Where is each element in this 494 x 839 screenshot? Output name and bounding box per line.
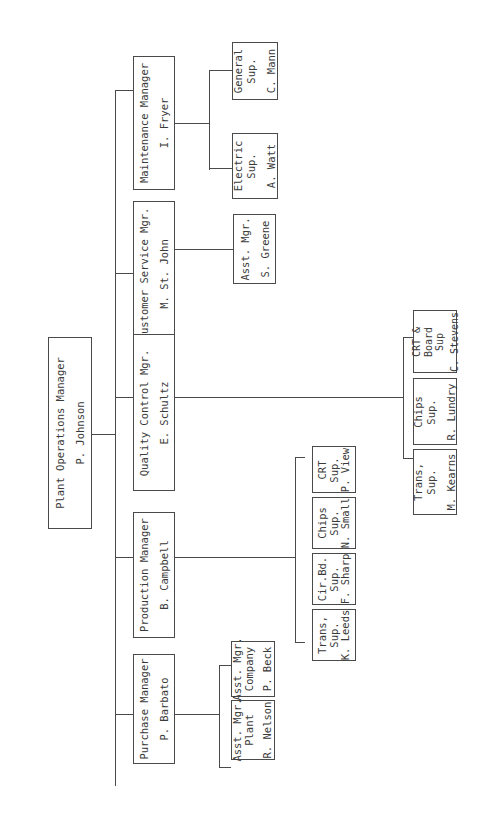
connector-production — [115, 557, 133, 558]
report-name: P. Beck — [262, 637, 274, 700]
report-line: CRT & — [411, 311, 423, 371]
report-box-beck: Asst. Mgr.CompanyP. Beck — [231, 641, 275, 697]
report-line: CRT — [317, 447, 329, 491]
manager-name: P. Barbato — [158, 658, 171, 759]
report-line: Asst. Mgr. — [232, 698, 244, 761]
connector-production-sub — [175, 557, 295, 558]
report-line: Asst. Mgr. — [238, 217, 251, 280]
root-title: Plant Operations Manager — [54, 357, 67, 509]
report-line: Chips — [412, 383, 425, 440]
report-box-crt: CRTSup.P. View — [312, 446, 356, 493]
report-line: General — [232, 49, 245, 93]
quality-sub-spine — [403, 337, 404, 459]
manager-title: Purchase Manager — [138, 658, 151, 759]
report-name: P. View — [340, 447, 352, 491]
manager-box-purchase: Purchase ManagerP. Barbato — [133, 654, 175, 764]
manager-title: Quality Control Mgr. — [138, 349, 151, 475]
connector-maintenance — [115, 90, 133, 91]
connector-root-spine — [92, 434, 116, 435]
report-name: N. Small — [340, 498, 352, 549]
report-box-chips: ChipsSup.N. Small — [312, 497, 356, 549]
report-line: Sup. — [425, 454, 438, 511]
report-line: Sup. — [425, 383, 438, 440]
report-line: Cir.Bd. — [317, 554, 329, 605]
connector-quality-sub — [175, 397, 403, 398]
connector-cs-sub — [175, 249, 233, 250]
manager-title: Maintenance Manager — [138, 63, 151, 183]
report-name: K. Leeds — [340, 610, 352, 661]
report-name: M. Kearns — [445, 454, 458, 511]
report-line: Sup — [434, 311, 446, 371]
report-line: Electric — [232, 141, 245, 192]
report-box-kearns: Trans,Sup.M. Kearns — [413, 449, 457, 515]
report-box-general: GeneralSup.C. Mann — [232, 42, 278, 100]
maint-sub-spine — [209, 70, 210, 170]
report-box-greene: Asst. Mgr.S. Greene — [233, 214, 276, 284]
manager-title: Customer Service Mgr. — [138, 207, 151, 340]
connector-beck — [219, 665, 231, 666]
report-name: R. Nelson — [262, 698, 274, 761]
manager-box-customer-service: Customer Service Mgr.M. St. John — [133, 201, 175, 346]
root-box: Plant Operations ManagerP. Johnson — [48, 337, 92, 529]
report-box-cirbd: Cir.Bd.Sup.F. Sharp — [312, 553, 356, 605]
report-line: Board — [422, 311, 434, 371]
report-name: R. Lundry — [445, 383, 458, 440]
manager-name: M. St. John — [158, 207, 171, 340]
report-box-lundry: ChipsSup.R. Lundry — [413, 378, 457, 445]
manager-title: Production Manager — [138, 518, 151, 632]
report-line: Sup. — [245, 49, 258, 93]
report-line: Chips — [317, 498, 329, 549]
connector-purchase — [115, 714, 133, 715]
report-name: C. Mann — [265, 49, 278, 93]
root-name: P. Johnson — [74, 357, 87, 509]
report-box-nelson: Asst. Mgr.PlantR. Nelson — [231, 700, 275, 760]
report-line: Trans, — [412, 454, 425, 511]
manager-box-quality: Quality Control Mgr.E. Schultz — [133, 334, 175, 491]
report-line: Company — [244, 637, 256, 700]
report-name: F. Sharp — [340, 554, 352, 605]
manager-box-production: Production ManagerB. Campbell — [133, 512, 175, 638]
connector-purchase-sub — [175, 714, 219, 715]
report-box-crt-board: CRT &BoardSupC. Stevens — [413, 310, 457, 373]
spine-line — [115, 90, 116, 786]
manager-name: I. Fryer — [158, 63, 171, 183]
report-box-electric: ElectricSup.A. Watt — [232, 133, 278, 199]
connector-general — [209, 70, 232, 71]
report-box-trans: Trans,Sup.K. Leeds — [312, 609, 356, 661]
report-name: S. Greene — [258, 217, 271, 280]
connector-nelson — [219, 767, 231, 768]
connector-customer-service — [115, 273, 133, 274]
purchase-sub-spine — [219, 665, 220, 768]
report-line: Asst. Mgr. — [232, 637, 244, 700]
report-name: C. Stevens — [448, 311, 460, 371]
manager-name: E. Schultz — [158, 349, 171, 475]
report-line: Plant — [244, 698, 256, 761]
connector-maintenance-sub — [175, 123, 209, 124]
connector-quality — [115, 397, 133, 398]
connector-electric — [209, 168, 232, 169]
manager-name: B. Campbell — [158, 518, 171, 632]
connector-trans — [295, 642, 305, 643]
connector-crt — [295, 457, 305, 458]
report-line: Trans, — [317, 610, 329, 661]
manager-box-maintenance: Maintenance ManagerI. Fryer — [133, 56, 175, 190]
report-line: Sup. — [245, 141, 258, 192]
production-sub-spine — [295, 457, 296, 643]
report-name: A. Watt — [265, 141, 278, 192]
